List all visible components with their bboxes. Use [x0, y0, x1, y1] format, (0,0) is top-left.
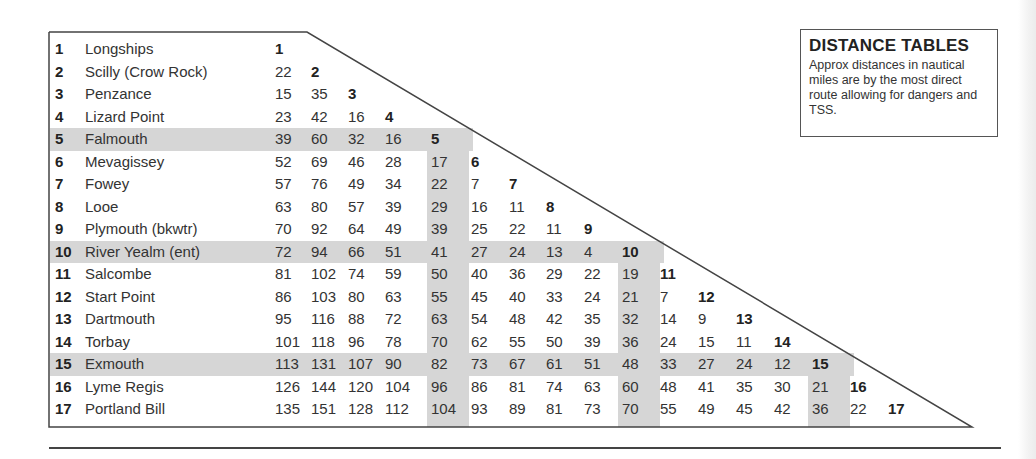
distance-cell: 24 [584, 286, 601, 309]
place-name: Start Point [85, 286, 155, 309]
row-number: 2 [55, 61, 63, 84]
distance-cell: 95 [275, 308, 292, 331]
place-name: Torbay [85, 331, 130, 354]
distance-cell: 118 [311, 331, 335, 354]
column-header-number: 12 [698, 286, 715, 309]
distance-cell: 78 [385, 331, 402, 354]
distance-cell: 80 [311, 196, 328, 219]
distance-cell: 103 [311, 286, 336, 309]
distance-cell: 22 [850, 398, 867, 421]
distance-cell: 29 [431, 196, 448, 219]
column-header-number: 6 [471, 151, 479, 174]
place-name: Exmouth [85, 353, 144, 376]
distance-cell: 69 [311, 151, 328, 174]
place-name: Scilly (Crow Rock) [85, 61, 208, 84]
distance-cell: 7 [471, 173, 479, 196]
distance-cell: 81 [509, 376, 526, 399]
distance-cell: 80 [348, 286, 365, 309]
distance-cell: 49 [385, 218, 402, 241]
distance-cell: 48 [660, 376, 677, 399]
distance-cell: 28 [385, 151, 402, 174]
distance-cell: 70 [431, 331, 448, 354]
distance-cell: 93 [471, 398, 488, 421]
distance-cell: 33 [546, 286, 563, 309]
place-name: Falmouth [85, 128, 148, 151]
distance-cell: 74 [546, 376, 563, 399]
distance-cell: 86 [471, 376, 488, 399]
row-number: 11 [55, 263, 71, 286]
distance-cell: 41 [698, 376, 715, 399]
place-name: Salcombe [85, 263, 152, 286]
row-number: 1 [55, 38, 63, 61]
distance-cell: 96 [348, 331, 365, 354]
distance-cell: 51 [584, 353, 601, 376]
place-name: Longships [85, 38, 153, 61]
place-name: Penzance [85, 83, 152, 106]
distance-cell: 24 [660, 331, 677, 354]
distance-cell: 42 [546, 308, 563, 331]
distance-cell: 39 [584, 331, 601, 354]
column-header-number: 1 [275, 38, 283, 61]
distance-cell: 15 [275, 83, 292, 106]
info-title: DISTANCE TABLES [809, 36, 991, 56]
distance-cell: 36 [812, 398, 829, 421]
distance-cell: 41 [431, 241, 448, 264]
distance-cell: 32 [622, 308, 639, 331]
distance-cell: 94 [311, 241, 328, 264]
distance-cell: 128 [348, 398, 373, 421]
distance-cell: 86 [275, 286, 292, 309]
distance-cell: 48 [622, 353, 639, 376]
distance-cell: 49 [698, 398, 715, 421]
place-name: Lizard Point [85, 106, 164, 129]
distance-cell: 63 [275, 196, 292, 219]
distance-cell: 39 [275, 128, 292, 151]
distance-cell: 62 [471, 331, 488, 354]
distance-cell: 120 [348, 376, 373, 399]
row-number: 5 [55, 128, 63, 151]
column-header-number: 10 [622, 241, 639, 264]
distance-cell: 126 [275, 376, 300, 399]
distance-cell: 4 [584, 241, 592, 264]
place-name: Plymouth (bkwtr) [85, 218, 198, 241]
distance-cell: 11 [736, 331, 752, 354]
distance-cell: 96 [431, 376, 448, 399]
distance-cell: 24 [509, 241, 526, 264]
row-number: 17 [55, 398, 72, 421]
distance-cell: 60 [622, 376, 639, 399]
distance-cell: 7 [660, 286, 668, 309]
distance-cell: 64 [348, 218, 365, 241]
distance-cell: 50 [431, 263, 448, 286]
distance-cell: 89 [509, 398, 526, 421]
distance-cell: 40 [471, 263, 488, 286]
row-number: 6 [55, 151, 63, 174]
distance-cell: 40 [509, 286, 526, 309]
distance-cell: 104 [385, 376, 410, 399]
place-name: Fowey [85, 173, 129, 196]
distance-cell: 39 [431, 218, 448, 241]
column-header-number: 2 [311, 61, 319, 84]
distance-cell: 112 [385, 398, 409, 421]
distance-cell: 32 [348, 128, 365, 151]
distance-cell: 11 [509, 196, 525, 219]
column-header-number: 5 [431, 128, 439, 151]
distance-cell: 15 [698, 331, 715, 354]
row-number: 10 [55, 241, 72, 264]
distance-cell: 60 [311, 128, 328, 151]
distance-cell: 35 [311, 83, 328, 106]
distance-cell: 81 [275, 263, 292, 286]
distance-cell: 101 [275, 331, 300, 354]
distance-cell: 24 [736, 353, 753, 376]
distance-cell: 63 [431, 308, 448, 331]
distance-cell: 104 [431, 398, 456, 421]
distance-cell: 25 [471, 218, 488, 241]
distance-cell: 39 [385, 196, 402, 219]
distance-cell: 19 [622, 263, 639, 286]
distance-cell: 14 [660, 308, 677, 331]
distance-cell: 23 [275, 106, 292, 129]
distance-cell: 30 [774, 376, 791, 399]
distance-cell: 42 [774, 398, 791, 421]
place-name: Mevagissey [85, 151, 164, 174]
distance-cell: 45 [471, 286, 488, 309]
place-name: River Yealm (ent) [85, 241, 200, 264]
distance-cell: 63 [584, 376, 601, 399]
